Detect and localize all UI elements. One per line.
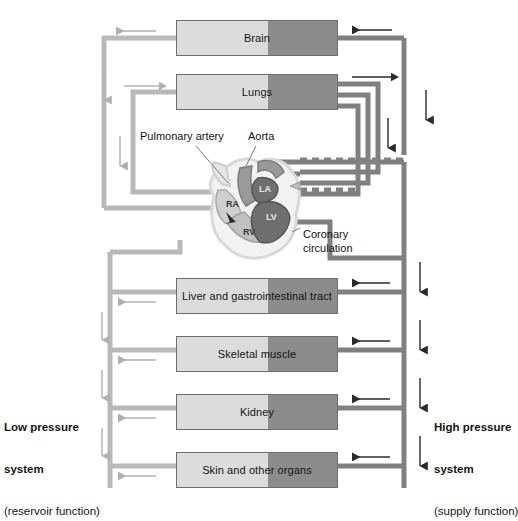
organ-box-lungs[interactable]: Lungs bbox=[176, 74, 338, 110]
organ-box-skin[interactable]: Skin and other organs bbox=[176, 452, 338, 488]
left-system-line3: (reservoir function) bbox=[4, 504, 100, 518]
chamber-label-rv: RV bbox=[243, 227, 255, 237]
organ-box-kidney[interactable]: Kidney bbox=[176, 394, 338, 430]
organ-label-skin: Skin and other organs bbox=[202, 464, 312, 476]
oxygen-poor-half bbox=[268, 21, 337, 55]
callout-coronary-circulation-line1: Coronary bbox=[303, 228, 348, 240]
organ-label-liver: Liver and gastrointestinal tract bbox=[182, 290, 332, 302]
left-system-line2: system bbox=[4, 463, 44, 475]
organ-label-skeletal-muscle: Skeletal muscle bbox=[218, 348, 297, 360]
callout-coronary-circulation-line2: circulation bbox=[303, 242, 353, 254]
organ-label-lungs: Lungs bbox=[242, 86, 272, 98]
left-system-label: Low pressure system (reservoir function) bbox=[4, 392, 100, 521]
right-system-line3: (supply function) bbox=[434, 504, 518, 518]
right-system-label: High pressure system (supply function) bbox=[434, 392, 518, 521]
organ-box-liver[interactable]: Liver and gastrointestinal tract bbox=[176, 278, 338, 314]
chamber-label-lv: LV bbox=[266, 212, 277, 222]
heart-illustration bbox=[210, 159, 300, 258]
organ-box-skeletal-muscle[interactable]: Skeletal muscle bbox=[176, 336, 338, 372]
callout-aorta: Aorta bbox=[248, 130, 274, 142]
oxygen-rich-half bbox=[268, 75, 337, 109]
oxygen-poor-half bbox=[268, 395, 337, 429]
chamber-label-ra: RA bbox=[226, 199, 239, 209]
organ-label-brain: Brain bbox=[244, 32, 270, 44]
organ-box-brain[interactable]: Brain bbox=[176, 20, 338, 56]
chamber-label-la: LA bbox=[259, 184, 271, 194]
left-system-line1: Low pressure bbox=[4, 421, 79, 433]
right-system-line1: High pressure bbox=[434, 421, 511, 433]
callout-pulmonary-artery: Pulmonary artery bbox=[140, 130, 224, 142]
organ-label-kidney: Kidney bbox=[240, 406, 274, 418]
right-system-line2: system bbox=[434, 463, 474, 475]
